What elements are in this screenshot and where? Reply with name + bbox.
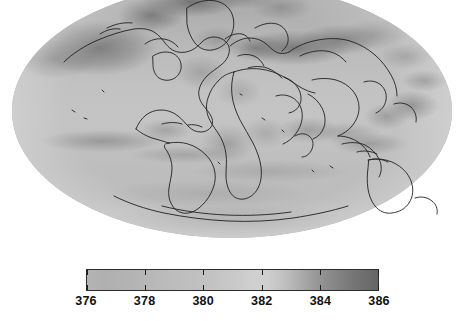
- global-map: [12, 0, 452, 238]
- colorbar-tick-label-382: 382: [251, 294, 272, 308]
- colorbar-tick: [320, 270, 321, 275]
- colorbar-tick: [262, 285, 263, 290]
- colorbar-tick: [203, 270, 204, 275]
- colorbar-tick-label-376: 376: [75, 294, 96, 308]
- colorbar-tick-label-384: 384: [310, 294, 331, 308]
- colorbar-tick-labels: 376 378 380 382 384 386: [86, 294, 379, 314]
- colorbar-tick: [145, 285, 146, 290]
- colorbar-tick-label-380: 380: [192, 294, 213, 308]
- colorbar-tick: [203, 285, 204, 290]
- colorbar-tick: [87, 270, 88, 275]
- colorbar-tick-label-378: 378: [134, 294, 155, 308]
- figure-canvas: 376 378 380 382 384 386: [0, 0, 464, 321]
- colorbar: 376 378 380 382 384 386: [86, 269, 379, 314]
- colorbar-gradient: [86, 269, 379, 291]
- colorbar-tick-label-386: 386: [368, 294, 389, 308]
- colorbar-tick: [320, 285, 321, 290]
- colorbar-tick: [145, 270, 146, 275]
- map-projection-ellipse: [12, 0, 452, 238]
- concentration-field: [12, 0, 452, 238]
- colorbar-tick: [262, 270, 263, 275]
- colorbar-tick: [378, 270, 379, 275]
- colorbar-tick: [378, 285, 379, 290]
- colorbar-tick: [87, 285, 88, 290]
